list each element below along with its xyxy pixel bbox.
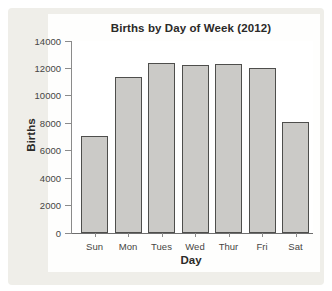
y-tick-label: 2000 <box>15 199 61 212</box>
y-tick-mark <box>65 68 72 69</box>
x-category-label-sat: Sat <box>276 241 316 252</box>
bar-thur <box>215 64 242 233</box>
y-tick-label: 8000 <box>15 117 61 130</box>
x-tick-mark <box>128 233 129 237</box>
x-tick-mark <box>195 233 196 237</box>
x-axis-title: Day <box>58 254 324 266</box>
y-tick-mark <box>65 95 72 96</box>
chart-title: Births by Day of Week (2012) <box>58 22 324 34</box>
y-tick-mark <box>65 233 72 234</box>
bar-mon <box>115 77 142 233</box>
chart-panel: Births by Day of Week (2012) Births 0200… <box>8 8 324 285</box>
x-tick-mark <box>262 233 263 237</box>
y-tick-label: 4000 <box>15 172 61 185</box>
x-tick-mark <box>95 233 96 237</box>
y-tick-label: 10000 <box>15 89 61 102</box>
y-tick-mark <box>65 205 72 206</box>
y-tick-mark <box>65 41 72 42</box>
bar-fri <box>249 68 276 233</box>
y-axis-title: Births <box>25 90 39 180</box>
y-tick-mark <box>65 123 72 124</box>
plot-area: 02000400060008000100001200014000SunMonTu… <box>71 41 313 234</box>
screenshot-page: Births by Day of Week (2012) Births 0200… <box>0 0 332 291</box>
y-tick-label: 0 <box>15 227 61 240</box>
bar-sat <box>282 122 309 233</box>
y-tick-label: 14000 <box>15 35 61 48</box>
bar-tues <box>148 63 175 233</box>
y-tick-mark <box>65 178 72 179</box>
bar-sun <box>81 136 108 233</box>
bar-wed <box>182 65 209 233</box>
y-tick-mark <box>65 150 72 151</box>
x-tick-mark <box>229 233 230 237</box>
x-tick-mark <box>162 233 163 237</box>
y-tick-label: 12000 <box>15 62 61 75</box>
x-tick-mark <box>296 233 297 237</box>
y-tick-label: 6000 <box>15 144 61 157</box>
